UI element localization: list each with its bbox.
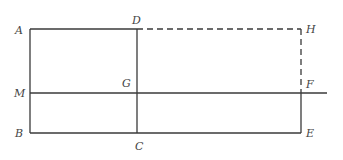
label-A: A <box>14 24 23 37</box>
label-B: B <box>14 127 23 140</box>
label-H: H <box>305 23 316 36</box>
label-C: C <box>135 140 144 153</box>
label-E: E <box>305 127 314 140</box>
label-G: G <box>122 77 131 90</box>
label-D: D <box>131 14 141 27</box>
label-F: F <box>305 78 314 91</box>
label-M: M <box>13 87 26 100</box>
geometry-diagram: A D H M G F B C E <box>0 0 343 160</box>
